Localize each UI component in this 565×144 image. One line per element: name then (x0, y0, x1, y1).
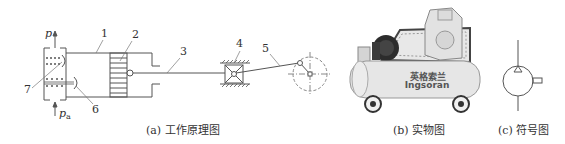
label-part-2: 2 (132, 28, 139, 41)
outlet-arrow-icon (53, 31, 57, 48)
exhaust-valve (46, 57, 60, 65)
air-compressor-figure: 1 2 3 4 5 6 7 p pa (0, 0, 565, 144)
compressor-photo (350, 8, 480, 112)
intake-valve (46, 78, 63, 87)
compressor-symbol (503, 40, 542, 111)
caption-working-principle: (a) 工作原理图 (146, 121, 220, 137)
caption-symbol: (c) 符号图 (498, 121, 549, 137)
connecting-rod (236, 63, 299, 73)
piston (110, 53, 133, 97)
label-part-5: 5 (262, 42, 269, 55)
label-part-1: 1 (101, 27, 108, 40)
exhaust-valve-head (62, 55, 65, 67)
working-principle-diagram (32, 31, 332, 116)
label-outlet-pressure: p (45, 27, 52, 40)
crosshead-slider (220, 60, 250, 87)
label-part-3: 3 (180, 45, 187, 58)
intake-valve-head (74, 77, 77, 89)
label-part-7: 7 (24, 83, 31, 96)
brand-name-english: Ingsoran (394, 80, 460, 90)
label-part-4: 4 (236, 37, 243, 50)
crankshaft (288, 52, 332, 96)
caption-photo: (b) 实物图 (393, 121, 445, 137)
label-part-6: 6 (92, 103, 99, 116)
inlet-arrow-icon (53, 102, 57, 116)
label-inlet-pressure: pa (59, 107, 71, 121)
